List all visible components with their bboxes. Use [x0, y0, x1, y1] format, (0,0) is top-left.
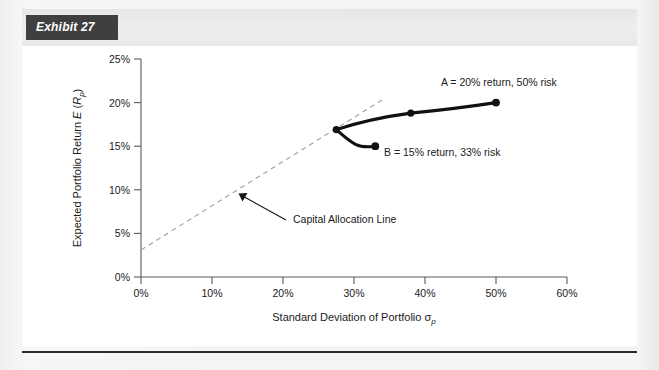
efficient-frontier-upper — [336, 103, 496, 130]
annotation-cal-group: Capital Allocation Line — [239, 193, 397, 225]
data-point-b[interactable] — [371, 142, 379, 150]
y-tick-25: 25% — [109, 53, 130, 65]
frontier-lower-branch — [336, 130, 375, 147]
x-tick-labels: 0% 10% 20% 30% 40% 50% 60% — [133, 287, 577, 299]
exhibit-page: Exhibit 27 25% 20% 15% — [0, 0, 659, 370]
data-point-a[interactable] — [492, 99, 500, 107]
y-axis-title-arg: R — [71, 97, 83, 105]
y-axis — [134, 59, 141, 277]
x-tick-10: 10% — [201, 287, 222, 299]
data-point-tangency[interactable] — [333, 126, 340, 133]
x-axis-title-main: Standard Deviation of Portfolio — [272, 311, 421, 323]
annotation-point-a: A = 20% return, 50% risk — [441, 76, 558, 88]
y-tick-10: 10% — [109, 184, 130, 196]
y-axis-title-close: ) — [71, 89, 83, 93]
x-tick-0: 0% — [133, 287, 148, 299]
y-tick-0: 0% — [115, 271, 130, 283]
x-tick-40: 40% — [414, 287, 435, 299]
y-tick-5: 5% — [115, 227, 130, 239]
capital-allocation-line — [141, 100, 382, 250]
data-point-mid[interactable] — [407, 110, 414, 117]
annotation-cal-arrowhead-icon — [239, 193, 248, 202]
annotation-capital-allocation-line: Capital Allocation Line — [293, 213, 396, 225]
annotation-cal-leader-line — [244, 197, 287, 221]
chart-canvas: 25% 20% 15% 10% 5% 0% 0% 10% 20% 30% 40%… — [0, 0, 659, 370]
x-tick-20: 20% — [272, 287, 293, 299]
annotation-point-b: B = 15% return, 33% risk — [384, 146, 501, 158]
y-tick-15: 15% — [109, 140, 130, 152]
y-axis-title-main: Expected Portfolio Return — [71, 122, 83, 247]
x-tick-30: 30% — [343, 287, 364, 299]
y-tick-labels: 25% 20% 15% 10% 5% 0% — [109, 53, 130, 283]
y-tick-20: 20% — [109, 97, 130, 109]
x-axis-title: Standard Deviation of Portfolio σp — [272, 311, 436, 326]
y-axis-title: Expected Portfolio Return E (Rp) — [71, 89, 86, 248]
x-tick-60: 60% — [556, 287, 577, 299]
x-axis — [141, 277, 567, 284]
x-axis-title-symbol-sub: p — [430, 317, 436, 326]
x-tick-50: 50% — [485, 287, 506, 299]
